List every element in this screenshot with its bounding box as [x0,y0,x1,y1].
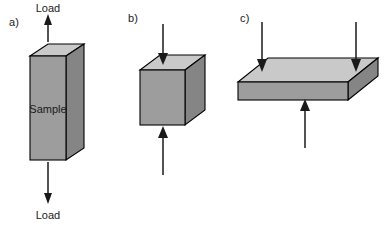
panel-a-side-face [66,44,84,160]
load-label-top: Load [28,2,68,14]
panel-b-front-face [140,70,185,125]
panel-c-bottom-center-support-arrow [300,99,310,148]
panel-c-front-face [238,82,348,100]
panel-a-bottom-load-arrow [44,162,52,204]
panel-a-specimen [30,44,84,160]
panel-b-bottom-load-arrow [158,126,168,175]
panel-b-specimen [140,55,205,125]
sample-label: Sample [24,103,72,115]
panel-a-top-load-arrow [44,14,52,42]
mechanical-testing-diagram: a) b) c) Load Load Sample [0,0,384,229]
panel-label-c: c) [240,12,250,24]
load-label-bottom: Load [28,209,68,221]
panel-label-b: b) [128,12,138,24]
panel-label-a: a) [9,16,19,28]
